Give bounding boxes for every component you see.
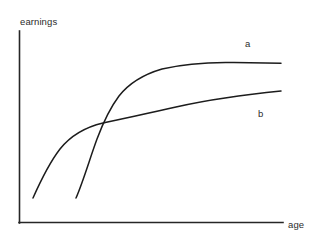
figure-canvas: earnings age a b [0, 0, 317, 240]
x-axis-label: age [288, 219, 304, 230]
curve-a-path [76, 62, 281, 198]
curve-b-label: b [258, 108, 263, 119]
curve-b-path [33, 91, 281, 198]
y-axis-label: earnings [20, 16, 57, 27]
chart-svg [0, 0, 317, 240]
curve-a-label: a [245, 38, 250, 49]
